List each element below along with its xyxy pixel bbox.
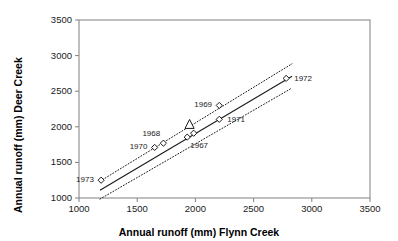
data-point-label: 1967 [190, 141, 208, 150]
x-tick-label: 1500 [123, 203, 151, 214]
data-point-label: 1968 [142, 129, 160, 138]
axis-ticks [75, 20, 370, 202]
x-tick-label: 1000 [65, 203, 93, 214]
confidence-band-lines [100, 64, 292, 199]
y-tick-label: 3000 [39, 50, 72, 61]
x-tick-label: 2500 [240, 203, 268, 214]
y-tick-label: 1000 [39, 192, 72, 203]
y-axis-title: Annual runoff (mm) Deer Creek [12, 57, 24, 213]
x-tick-label: 3500 [356, 203, 384, 214]
data-point-label: 1970 [130, 142, 148, 151]
data-point-label: 1973 [76, 175, 94, 184]
data-point-label: 1972 [294, 74, 312, 83]
y-tick-label: 2500 [39, 85, 72, 96]
y-tick-label: 3500 [39, 14, 72, 25]
data-point-markers [98, 75, 289, 183]
x-tick-label: 3000 [298, 203, 326, 214]
y-tick-label: 2000 [39, 121, 72, 132]
x-axis-title: Annual runoff (mm) Flynn Creek [0, 226, 398, 238]
y-tick-label: 1500 [39, 156, 72, 167]
x-tick-label: 2000 [181, 203, 209, 214]
chart-figure: 1000150020002500300035001000150020002500… [0, 0, 398, 241]
data-point-label: 1971 [227, 115, 245, 124]
plot-frame [79, 20, 370, 198]
data-point-label: 1969 [194, 100, 212, 109]
